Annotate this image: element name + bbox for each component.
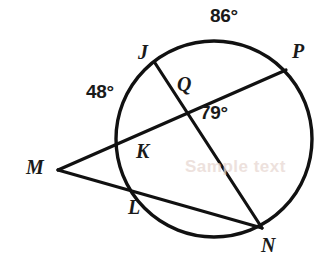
- arc-measure-jp: 86°: [210, 6, 238, 25]
- geometry-figure: Sample text J P Q K L M N 86° 48° 79°: [0, 0, 329, 271]
- point-label-k: K: [136, 141, 149, 161]
- angle-measure-q: 79°: [200, 103, 228, 122]
- background-watermark: Sample text: [185, 157, 286, 177]
- point-label-m: M: [26, 157, 44, 177]
- point-label-q: Q: [177, 74, 191, 94]
- point-label-j: J: [138, 42, 148, 62]
- arc-measure-jk: 48°: [86, 82, 114, 101]
- point-label-l: L: [128, 197, 140, 217]
- point-label-n: N: [261, 235, 275, 255]
- geometry-canvas: [0, 0, 329, 271]
- point-label-p: P: [292, 41, 304, 61]
